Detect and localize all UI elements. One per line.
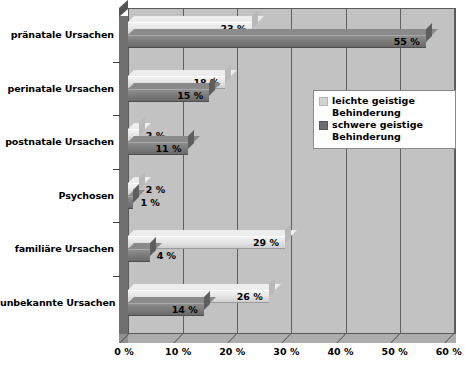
x-axis-tick-label: 50 % bbox=[382, 346, 408, 357]
legend-item-leichte: leichte geistigeBehinderung bbox=[319, 95, 450, 118]
legend-swatch-light-icon bbox=[319, 97, 328, 106]
legend-label-leichte: leichte geistigeBehinderung bbox=[332, 95, 415, 118]
x-axis-tick-label: 0 % bbox=[114, 346, 133, 357]
bar-schwere bbox=[128, 196, 133, 209]
chart-side-wall-top bbox=[119, 0, 128, 17]
legend-label-leichte-line1: leichte geistige bbox=[332, 95, 415, 106]
category-label: postnatale Ursachen bbox=[0, 136, 114, 147]
category-axis-tick bbox=[113, 169, 120, 170]
bar-value-label: 14 % bbox=[158, 303, 198, 316]
legend-swatch-dark-icon bbox=[319, 121, 328, 130]
chart-legend: leichte geistigeBehinderung schwere geis… bbox=[313, 90, 456, 149]
legend-item-schwere: schwere geistigeBehinderung bbox=[319, 119, 450, 142]
x-axis-tick-label: 30 % bbox=[273, 346, 299, 357]
category-label: familiäre Ursachen bbox=[0, 243, 114, 254]
value-axis-labels: 0 %10 %20 %30 %40 %50 %60 % bbox=[0, 346, 465, 366]
chart-side-wall bbox=[119, 16, 128, 342]
category-axis-labels: pränatale Ursachenperinatale Ursachenpos… bbox=[0, 10, 114, 340]
category-label: Psychosen bbox=[0, 190, 114, 201]
category-axis-tick bbox=[113, 276, 120, 277]
x-axis-tick-label: 40 % bbox=[327, 346, 353, 357]
x-axis-tick-label: 10 % bbox=[165, 346, 191, 357]
gridline bbox=[346, 9, 347, 333]
legend-label-leichte-line2: Behinderung bbox=[332, 107, 401, 118]
category-label: unbekannte Ursachen bbox=[0, 297, 114, 308]
bar-front-face bbox=[128, 249, 150, 262]
category-label: perinatale Ursachen bbox=[0, 83, 114, 94]
bar-value-label: 2 % bbox=[146, 183, 165, 196]
bar-chart: pränatale Ursachenperinatale Ursachenpos… bbox=[0, 0, 465, 373]
gridline bbox=[291, 9, 292, 333]
x-axis-tick-label: 60 % bbox=[436, 346, 462, 357]
legend-label-schwere-line2: Behinderung bbox=[332, 131, 401, 142]
bar-value-label: 1 % bbox=[140, 196, 159, 209]
x-axis-tick-label: 20 % bbox=[219, 346, 245, 357]
category-axis-tick bbox=[113, 115, 120, 116]
gridline bbox=[400, 9, 401, 333]
bar-value-label: 4 % bbox=[157, 249, 176, 262]
bar-front-face bbox=[128, 196, 133, 209]
gridline bbox=[454, 9, 455, 333]
bar-schwere bbox=[128, 249, 150, 262]
bar-value-label: 15 % bbox=[163, 89, 203, 102]
legend-label-schwere: schwere geistigeBehinderung bbox=[332, 119, 423, 142]
category-label: pränatale Ursachen bbox=[0, 29, 114, 40]
bar-value-label: 26 % bbox=[223, 290, 263, 303]
category-axis-tick bbox=[113, 222, 120, 223]
legend-label-schwere-line1: schwere geistige bbox=[332, 119, 423, 130]
bar-value-label: 29 % bbox=[239, 236, 279, 249]
category-axis-tick bbox=[113, 62, 120, 63]
bar-value-label: 55 % bbox=[380, 35, 420, 48]
bar-value-label: 11 % bbox=[142, 142, 182, 155]
